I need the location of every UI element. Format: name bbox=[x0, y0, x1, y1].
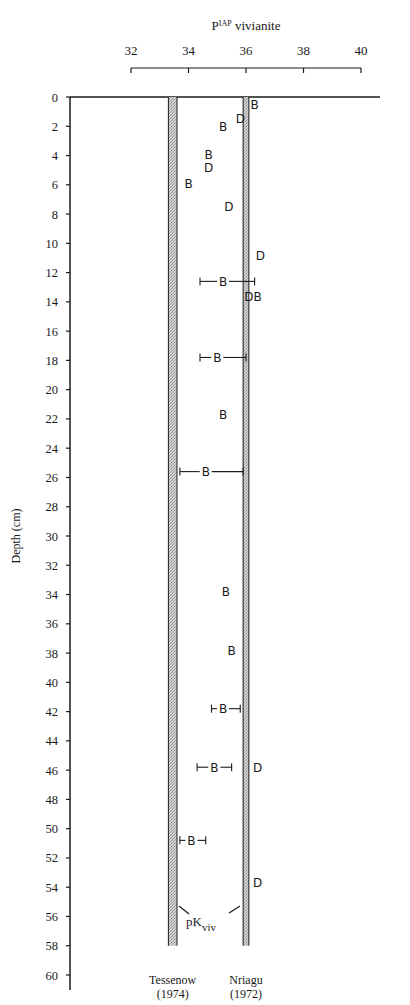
y-tick-label: 40 bbox=[46, 676, 59, 690]
y-tick-label: 48 bbox=[46, 793, 59, 807]
vivianite-depth-chart: PIAP vivianite 3234363840 02468101214161… bbox=[0, 0, 410, 1005]
data-point-d: D bbox=[204, 161, 213, 175]
y-tick-label: 52 bbox=[46, 851, 59, 865]
y-tick-label: 38 bbox=[46, 647, 59, 661]
data-point-d: D bbox=[253, 876, 262, 890]
x-tick-label: 34 bbox=[182, 43, 196, 58]
svg-text:B: B bbox=[184, 177, 192, 191]
svg-text:D: D bbox=[256, 249, 265, 263]
x-tick-label: 38 bbox=[297, 43, 310, 58]
y-tick-label: 0 bbox=[52, 91, 58, 105]
y-tick-label: 46 bbox=[46, 764, 59, 778]
data-point-b: B bbox=[184, 177, 192, 191]
data-point-b: B bbox=[197, 761, 232, 775]
data-point-b: B bbox=[228, 644, 236, 658]
data-point-d: D bbox=[224, 200, 233, 214]
y-tick-label: 32 bbox=[46, 559, 59, 573]
band-label-nriagu: Nriagu(1972) bbox=[229, 973, 262, 1001]
y-tick-label: 16 bbox=[46, 325, 59, 339]
y-tick-label: 58 bbox=[46, 939, 59, 953]
band-labels: Tessenow(1974)Nriagu(1972) bbox=[149, 973, 263, 1001]
svg-text:B: B bbox=[187, 834, 195, 848]
data-points: BBBBBBBBBBBBBBDDDDDDD bbox=[180, 98, 265, 890]
y-tick-label: 4 bbox=[52, 149, 59, 163]
svg-text:Tessenow: Tessenow bbox=[149, 973, 196, 987]
y-tick-label: 2 bbox=[52, 120, 58, 134]
y-tick-label: 10 bbox=[46, 237, 59, 251]
y-tick-label: 34 bbox=[46, 588, 59, 602]
svg-text:D: D bbox=[236, 112, 245, 126]
svg-text:B: B bbox=[228, 644, 236, 658]
y-tick-label: 22 bbox=[46, 412, 59, 426]
svg-text:B: B bbox=[253, 290, 261, 304]
x-axis: 3234363840 bbox=[125, 43, 368, 73]
data-point-d: D bbox=[244, 290, 253, 304]
y-tick-label: 6 bbox=[52, 178, 58, 192]
y-tick-label: 30 bbox=[46, 530, 59, 544]
data-point-d: D bbox=[253, 761, 262, 775]
data-point-b: B bbox=[180, 465, 243, 479]
x-axis-title: PIAP vivianite bbox=[212, 18, 281, 33]
data-point-d: D bbox=[236, 112, 245, 126]
svg-text:D: D bbox=[224, 200, 233, 214]
data-point-b: B bbox=[251, 98, 259, 112]
band-nriagu bbox=[243, 97, 249, 946]
svg-text:B: B bbox=[219, 120, 227, 134]
svg-text:D: D bbox=[244, 290, 253, 304]
y-tick-label: 28 bbox=[46, 500, 59, 514]
y-tick-label: 14 bbox=[46, 295, 59, 309]
y-tick-label: 42 bbox=[46, 705, 59, 719]
pk-viv-annotation: pKviv bbox=[179, 906, 240, 933]
svg-text:B: B bbox=[251, 98, 259, 112]
y-tick-label: 8 bbox=[52, 208, 58, 222]
y-tick-label: 54 bbox=[46, 881, 59, 895]
data-point-b: B bbox=[222, 585, 230, 599]
y-tick-label: 20 bbox=[46, 383, 59, 397]
y-tick-label: 26 bbox=[46, 471, 59, 485]
y-tick-label: 50 bbox=[46, 822, 59, 836]
svg-text:Nriagu: Nriagu bbox=[229, 973, 262, 987]
y-axis-title: Depth (cm) bbox=[9, 509, 23, 564]
x-tick-label: 40 bbox=[355, 43, 368, 58]
y-tick-label: 60 bbox=[46, 969, 59, 983]
y-tick-label: 12 bbox=[46, 266, 59, 280]
data-point-b: B bbox=[219, 120, 227, 134]
svg-text:B: B bbox=[202, 465, 210, 479]
svg-text:(1972): (1972) bbox=[230, 987, 262, 1001]
svg-text:pKviv: pKviv bbox=[186, 914, 216, 933]
data-point-b: B bbox=[219, 408, 227, 422]
data-point-b: B bbox=[253, 290, 261, 304]
pk-bands bbox=[168, 97, 249, 946]
x-tick-label: 32 bbox=[125, 43, 138, 58]
svg-text:D: D bbox=[253, 876, 262, 890]
svg-text:B: B bbox=[222, 585, 230, 599]
band-label-tessenow: Tessenow(1974) bbox=[149, 973, 196, 1001]
svg-text:B: B bbox=[219, 275, 227, 289]
svg-text:B: B bbox=[210, 761, 218, 775]
band-tessenow bbox=[168, 97, 177, 946]
y-tick-label: 24 bbox=[46, 442, 59, 456]
svg-text:B: B bbox=[219, 408, 227, 422]
data-point-b: B bbox=[212, 702, 241, 716]
y-tick-label: 18 bbox=[46, 354, 59, 368]
data-point-d: D bbox=[256, 249, 265, 263]
svg-text:B: B bbox=[219, 702, 227, 716]
svg-text:B: B bbox=[205, 148, 213, 162]
svg-text:D: D bbox=[253, 761, 262, 775]
y-axis: 0246810121416182022242628303234363840424… bbox=[46, 91, 381, 991]
svg-text:B: B bbox=[213, 351, 221, 365]
y-tick-label: 56 bbox=[46, 910, 59, 924]
data-point-b: B bbox=[200, 351, 246, 365]
svg-text:(1974): (1974) bbox=[157, 987, 189, 1001]
svg-text:D: D bbox=[204, 161, 213, 175]
y-tick-label: 36 bbox=[46, 617, 59, 631]
data-point-b: B bbox=[205, 148, 213, 162]
data-point-b: B bbox=[180, 834, 206, 848]
y-tick-label: 44 bbox=[46, 734, 59, 748]
x-tick-label: 36 bbox=[240, 43, 254, 58]
